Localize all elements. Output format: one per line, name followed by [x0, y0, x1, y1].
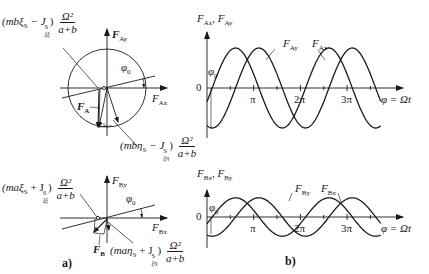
chart-bottom-axes	[207, 190, 403, 248]
angle-label-A: φ0	[121, 62, 131, 73]
diagram-a-bearing-A	[60, 29, 167, 146]
figure-drawing	[0, 0, 429, 274]
chart-bottom-tick-pi: π	[250, 223, 256, 234]
axis-y-label-A: FAy	[112, 29, 127, 40]
axis-y-label-B: FBy	[112, 175, 127, 186]
chart-top-ylabel: FAx, FAy	[197, 13, 232, 24]
term2-label-A: (mbηS − JSξη) Ω²a+b	[120, 134, 198, 161]
chart-top-xlabel: φ = Ωt	[381, 94, 411, 105]
force-label-A: FA	[77, 101, 89, 112]
force-label-B: FB	[93, 244, 105, 255]
term2-label-B: (maηS + JSξη) Ω²a+b	[110, 239, 186, 266]
chart-bottom-zero: 0	[196, 211, 202, 222]
chart-bottom-tick-3pi: 3π	[341, 223, 352, 234]
angle-label-B: φ0	[126, 193, 136, 204]
chart-top-tick-2pi: 2π	[294, 94, 305, 105]
term1-label-B: (maξS + JSξξ) Ω²a+b	[2, 176, 77, 203]
series-label-FBy: FBy	[295, 183, 310, 194]
axis-x-label-B: FBx	[152, 222, 167, 233]
leader-term1-B	[80, 194, 97, 217]
chart-top-tick-3pi: 3π	[341, 94, 352, 105]
rotating-line-A	[62, 76, 155, 98]
chart-top-phi0: φ0	[208, 66, 218, 77]
chart-bottom-ylabel: FBx, FBy	[197, 168, 232, 179]
axis-x-label-A: FAx	[152, 93, 167, 104]
series-label-FAx: FAx	[312, 38, 327, 49]
chart-bottom-tick-2pi: 2π	[294, 223, 305, 234]
chart-bottom-phi0: φ0	[209, 202, 219, 213]
fraction-B2: Ω²a+b	[164, 239, 186, 264]
panel-label-b: b)	[285, 255, 296, 267]
series-label-FBx: FBx	[321, 183, 336, 194]
fraction-A1: Ω²a+b	[56, 10, 78, 35]
panel-label-a: a)	[62, 257, 72, 269]
chart-top-zero: 0	[196, 82, 202, 93]
leader-FA	[90, 107, 99, 108]
fraction-A2: Ω²a+b	[176, 134, 198, 159]
chart-top-tick-pi: π	[250, 94, 256, 105]
series-label-FAy: FAy	[283, 38, 298, 49]
fraction-B1: Ω²a+b	[54, 176, 76, 201]
term1-label-A: (mbξS − JSξξ) Ω²a+b	[2, 10, 79, 37]
force-component-2	[107, 88, 118, 122]
chart-bottom-xlabel: φ = Ωt	[381, 223, 411, 234]
